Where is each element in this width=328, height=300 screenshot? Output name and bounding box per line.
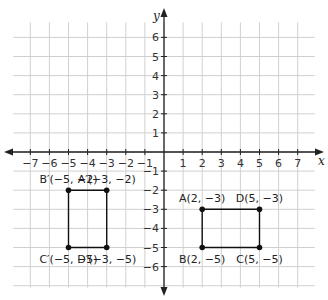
y-tick-label: −5 [143,242,159,255]
y-tick-label: −4 [143,222,159,235]
vertex-point [257,245,263,251]
y-tick-label: −3 [143,203,159,216]
vertex-label: D(5, −3) [236,192,283,205]
y-axis-arrow-up-icon [161,8,168,17]
y-tick-label: 2 [152,108,159,121]
y-tick-label: 5 [152,51,159,64]
vertex-label: A(2, −3) [179,192,225,205]
y-tick-label: 1 [152,127,159,140]
y-tick-label: 6 [152,31,159,44]
x-axis-label: x [318,154,325,168]
y-tick-label: −6 [143,261,159,274]
x-tick-label: 5 [256,157,263,170]
vertex-point [104,245,110,251]
y-tick-label: −1 [143,165,159,178]
vertex-point [199,207,205,213]
x-tick-label: 7 [294,157,301,170]
vertex-label: B(2, −5) [179,253,225,266]
x-tick-label: 3 [218,157,225,170]
x-tick-label: 1 [180,157,187,170]
vertex-label: A′(−3, −2) [78,173,136,186]
vertex-point [257,207,263,213]
y-axis-arrow-down-icon [161,287,168,296]
vertex-point [66,245,72,251]
x-tick-label: −4 [79,157,95,170]
x-tick-label: −5 [60,157,76,170]
vertex-point [199,245,205,251]
x-tick-label: −2 [118,157,134,170]
vertex-point [66,187,72,193]
x-tick-label: −7 [22,157,38,170]
y-tick-label: −2 [143,184,159,197]
y-tick-label: 4 [152,70,159,83]
x-tick-label: 4 [237,157,244,170]
x-axis-arrow-left-icon [4,149,13,156]
vertex-point [104,187,110,193]
x-tick-label: −3 [99,157,115,170]
x-tick-label: 2 [199,157,206,170]
x-tick-label: −6 [41,157,57,170]
y-axis-label: y [152,9,160,23]
coordinate-plane: xy−7−6−5−4−3−2−11234567654321−1−2−3−4−5−… [0,0,328,300]
y-tick-label: 3 [152,89,159,102]
x-tick-label: 6 [275,157,282,170]
vertex-label: C(5, −5) [236,253,282,266]
vertex-label: C′(−5, −5) [39,253,97,266]
